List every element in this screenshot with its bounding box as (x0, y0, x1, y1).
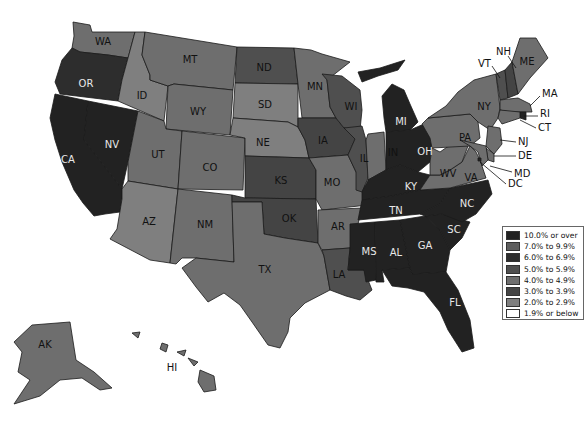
state-label-sc: SC (447, 224, 460, 235)
state-label-la: LA (333, 269, 346, 280)
state-label-in: IN (388, 147, 398, 158)
state-label-ct: CT (538, 122, 552, 133)
state-label-ne: NE (256, 137, 270, 148)
legend-label: 7.0% to 9.9% (524, 242, 575, 251)
callout-line-md (490, 166, 512, 172)
state-label-de: DE (518, 150, 532, 161)
legend-label: 4.0% to 4.9% (524, 276, 575, 285)
state-label-id: ID (137, 90, 148, 101)
state-label-vt: VT (478, 58, 492, 69)
state-ak (14, 322, 112, 404)
legend-swatch (506, 242, 520, 251)
state-label-ak: AK (38, 339, 52, 350)
state-ct (498, 110, 520, 124)
state-label-ut: UT (151, 149, 165, 160)
legend-item: 3.0% to 3.9% (506, 286, 580, 297)
state-label-sd: SD (258, 99, 272, 110)
state-label-nh: NH (496, 46, 511, 57)
legend-swatch (506, 309, 520, 318)
state-label-az: AZ (142, 216, 156, 227)
state-label-al: AL (390, 247, 403, 258)
state-label-ca: CA (61, 154, 75, 165)
state-label-or: OR (79, 78, 94, 89)
state-label-mt: MT (183, 54, 199, 65)
legend-swatch (506, 287, 520, 296)
state-label-dc: DC (508, 178, 523, 189)
legend-swatch (506, 298, 520, 307)
legend-label: 2.0% to 2.9% (524, 298, 575, 307)
state-label-oh: OH (417, 146, 432, 157)
state-label-tx: TX (258, 264, 272, 275)
state-label-ks: KS (275, 175, 288, 186)
legend-swatch (506, 265, 520, 274)
state-label-mn: MN (307, 81, 323, 92)
state-label-ky: KY (405, 181, 418, 192)
legend-label: 6.0% to 6.9% (524, 253, 575, 262)
callout-line-nj (500, 140, 516, 142)
state-label-nd: ND (256, 62, 271, 73)
legend-item: 2.0% to 2.9% (506, 297, 580, 308)
state-label-wi: WI (345, 101, 358, 112)
us-choropleth-map: WAORCANVIDMTWYUTCOAZNMNDSDNEKSOKTXMNIAMO… (0, 0, 587, 421)
legend-item: 6.0% to 6.9% (506, 252, 580, 263)
state-label-nm: NM (197, 219, 213, 230)
state-label-ar: AR (331, 221, 345, 232)
state-label-wy: WY (190, 106, 207, 117)
state-label-fl: FL (449, 297, 461, 308)
callout-line-ct (520, 120, 536, 128)
state-label-ok: OK (282, 213, 297, 224)
map-legend: 10.0% or over7.0% to 9.9%6.0% to 6.9%5.0… (502, 226, 584, 320)
legend-item: 10.0% or over (506, 230, 580, 241)
state-label-ms: MS (362, 246, 377, 257)
state-label-hi: HI (167, 362, 177, 373)
legend-item: 1.9% or below (506, 308, 580, 319)
legend-label: 5.0% to 5.9% (524, 265, 575, 274)
state-label-ri: RI (540, 108, 550, 119)
legend-swatch (506, 276, 520, 285)
state-label-va: VA (464, 172, 477, 183)
state-label-ga: GA (418, 240, 433, 251)
state-label-nv: NV (105, 139, 119, 150)
state-label-tn: TN (388, 205, 403, 216)
state-label-nj: NJ (518, 136, 528, 147)
state-fl (382, 268, 474, 352)
callout-line-ma (530, 96, 540, 106)
state-label-ny: NY (477, 101, 491, 112)
state-ma (500, 98, 532, 112)
legend-label: 1.9% or below (524, 309, 578, 318)
legend-swatch (506, 253, 520, 262)
state-label-il: IL (360, 153, 369, 164)
state-label-wa: WA (95, 36, 111, 47)
state-label-wv: WV (440, 168, 457, 179)
legend-label: 3.0% to 3.9% (524, 287, 575, 296)
legend-item: 5.0% to 5.9% (506, 264, 580, 275)
state-co (178, 131, 245, 190)
state-label-ia: IA (318, 135, 328, 146)
state-label-co: CO (203, 162, 218, 173)
state-label-mi: MI (395, 116, 407, 127)
state-mi (358, 60, 418, 132)
legend-label: 10.0% or over (524, 231, 578, 240)
state-label-mo: MO (324, 177, 341, 188)
state-label-me: ME (520, 56, 535, 67)
legend-item: 4.0% to 4.9% (506, 275, 580, 286)
legend-swatch (506, 231, 520, 240)
state-label-nc: NC (460, 198, 474, 209)
state-label-ma: MA (542, 88, 558, 99)
state-dc (478, 158, 481, 161)
state-label-pa: PA (459, 132, 471, 143)
legend-item: 7.0% to 9.9% (506, 241, 580, 252)
